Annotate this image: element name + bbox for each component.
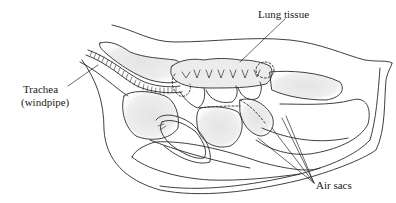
lower-lobe-1 xyxy=(180,88,205,108)
label-windpipe: (windpipe) xyxy=(21,96,69,109)
leader-trachea xyxy=(68,65,98,86)
air-sac-abdominal xyxy=(270,71,342,100)
lower-lobe-2 xyxy=(206,86,237,103)
leader-airsac-3 xyxy=(282,118,314,183)
air-sac-middle xyxy=(197,107,242,147)
label-trachea: Trachea xyxy=(23,83,58,96)
leader-airsac-1 xyxy=(258,138,314,183)
label-lung-tissue: Lung tissue xyxy=(258,8,309,21)
leader-lung-tissue xyxy=(240,19,285,62)
label-air-sacs: Air sacs xyxy=(316,179,352,192)
lung-tissue xyxy=(171,59,272,89)
leader-airsac-4 xyxy=(286,116,314,183)
right-inner-loop-2 xyxy=(262,128,348,141)
